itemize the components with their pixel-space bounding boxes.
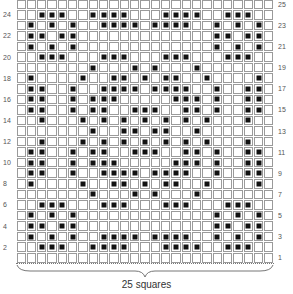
empty-square	[264, 10, 273, 20]
filled-square	[68, 84, 77, 94]
empty-square	[99, 190, 108, 200]
empty-square	[264, 95, 273, 105]
empty-square	[109, 0, 118, 9]
filled-square	[130, 168, 139, 178]
empty-square	[27, 63, 36, 73]
empty-square	[161, 95, 170, 105]
empty-square	[130, 0, 139, 9]
empty-square	[37, 126, 46, 136]
filled-square	[161, 232, 170, 242]
empty-square	[37, 179, 46, 189]
filled-square	[47, 242, 56, 252]
empty-square	[264, 0, 273, 9]
empty-square	[120, 158, 129, 168]
empty-square	[264, 242, 273, 252]
empty-square	[223, 105, 232, 115]
filled-square	[68, 168, 77, 178]
empty-square	[58, 105, 67, 115]
filled-square	[254, 211, 263, 221]
empty-square	[58, 158, 67, 168]
empty-square	[254, 137, 263, 147]
empty-square	[264, 31, 273, 41]
filled-square	[109, 179, 118, 189]
empty-square	[78, 232, 87, 242]
filled-square	[130, 63, 139, 73]
empty-square	[264, 21, 273, 31]
filled-square	[27, 105, 36, 115]
filled-square	[233, 52, 242, 62]
empty-square	[89, 200, 98, 210]
empty-square	[17, 84, 26, 94]
filled-square	[120, 242, 129, 252]
filled-square	[109, 95, 118, 105]
filled-square	[99, 105, 108, 115]
empty-square	[213, 73, 222, 83]
filled-square	[192, 158, 201, 168]
empty-square	[68, 116, 77, 126]
empty-square	[37, 63, 46, 73]
filled-square	[161, 126, 170, 136]
empty-square	[161, 31, 170, 41]
filled-square	[58, 31, 67, 41]
empty-square	[130, 31, 139, 41]
filled-square	[37, 95, 46, 105]
filled-square	[192, 147, 201, 157]
row-number-label: 21	[278, 43, 286, 50]
filled-square	[202, 116, 211, 126]
empty-square	[171, 63, 180, 73]
filled-square	[233, 242, 242, 252]
filled-square	[151, 232, 160, 242]
row-number-label: 15	[278, 106, 286, 113]
filled-square	[192, 105, 201, 115]
empty-square	[244, 0, 253, 9]
filled-square	[171, 232, 180, 242]
filled-square	[244, 84, 253, 94]
empty-square	[213, 137, 222, 147]
empty-square	[17, 232, 26, 242]
filled-square	[182, 158, 191, 168]
empty-square	[27, 137, 36, 147]
empty-square	[192, 137, 201, 147]
filled-square	[244, 200, 253, 210]
empty-square	[192, 116, 201, 126]
empty-square	[151, 200, 160, 210]
empty-square	[58, 95, 67, 105]
empty-square	[78, 126, 87, 136]
filled-square	[182, 21, 191, 31]
empty-square	[192, 221, 201, 231]
filled-square	[151, 190, 160, 200]
filled-square	[151, 21, 160, 31]
empty-square	[109, 221, 118, 231]
empty-square	[171, 0, 180, 9]
filled-square	[68, 105, 77, 115]
empty-square	[161, 147, 170, 157]
empty-square	[202, 95, 211, 105]
empty-square	[68, 242, 77, 252]
empty-square	[17, 168, 26, 178]
empty-square	[233, 190, 242, 200]
filled-square	[37, 84, 46, 94]
empty-square	[171, 105, 180, 115]
empty-square	[264, 116, 273, 126]
empty-square	[254, 126, 263, 136]
empty-square	[89, 168, 98, 178]
empty-square	[254, 0, 263, 9]
empty-square	[192, 200, 201, 210]
empty-square	[58, 137, 67, 147]
empty-square	[130, 10, 139, 20]
empty-square	[264, 137, 273, 147]
empty-square	[58, 73, 67, 83]
filled-square	[244, 105, 253, 115]
empty-square	[223, 158, 232, 168]
filled-square	[99, 137, 108, 147]
filled-square	[192, 10, 201, 20]
empty-square	[244, 73, 253, 83]
empty-square	[89, 42, 98, 52]
empty-square	[213, 63, 222, 73]
filled-square	[27, 168, 36, 178]
empty-square	[78, 63, 87, 73]
empty-square	[244, 21, 253, 31]
empty-square	[202, 84, 211, 94]
empty-square	[264, 211, 273, 221]
filled-square	[27, 147, 36, 157]
